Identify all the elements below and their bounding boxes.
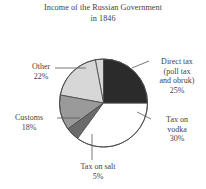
pie-label-tax-on-salt-value: 5%	[56, 172, 140, 182]
pie-label-other: Other 22%	[20, 62, 62, 81]
pie-label-other-line-1: Other	[20, 62, 62, 72]
pie-label-tax-on-vodka-value: 30%	[152, 134, 202, 144]
pie-label-tax-on-vodka: Tax on vodka 30%	[152, 115, 202, 144]
pie-label-other-value: 22%	[20, 72, 62, 82]
pie-chart-figure: Income of the Russian Government in 1846…	[0, 0, 206, 189]
pie-label-tax-on-salt-line-1: Tax on salt	[56, 162, 140, 172]
pie-label-customs: Customs 18%	[2, 113, 56, 132]
pie-label-direct-tax: Direct tax (poll tax and obruk) 25%	[150, 57, 204, 95]
pie-label-direct-tax-line-2: (poll tax	[150, 67, 204, 77]
pie-label-tax-on-vodka-line-2: vodka	[152, 125, 202, 135]
pie-slice-direct-tax[interactable]	[104, 59, 148, 103]
pie-label-customs-line-1: Customs	[2, 113, 56, 123]
leader-line-direct-tax	[132, 61, 149, 68]
pie-label-tax-on-salt: Tax on salt 5%	[56, 162, 140, 181]
pie-label-direct-tax-value: 25%	[150, 86, 204, 96]
pie-label-direct-tax-line-1: Direct tax	[150, 57, 204, 67]
pie-label-tax-on-vodka-line-1: Tax on	[152, 115, 202, 125]
pie-label-direct-tax-line-3: and obruk)	[150, 76, 204, 86]
pie-label-customs-value: 18%	[2, 123, 56, 133]
